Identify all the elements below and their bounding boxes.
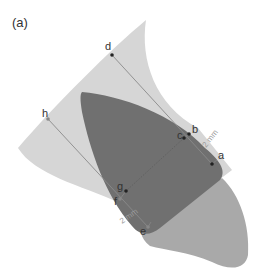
label-c: c [177,129,183,141]
point-f [118,197,122,201]
point-b [187,132,191,136]
diagram: (a) d b a c h g f e 2 mm 2 mm [0,0,265,279]
point-a [210,162,214,166]
point-c [182,136,186,140]
point-e [146,225,150,229]
point-d [110,53,114,57]
label-g: g [117,180,123,192]
label-a: a [218,149,225,161]
point-g [124,189,128,193]
label-b: b [192,123,198,135]
label-d: d [105,40,111,52]
label-h: h [42,107,48,119]
label-e: e [140,225,146,237]
panel-label: (a) [12,15,28,30]
